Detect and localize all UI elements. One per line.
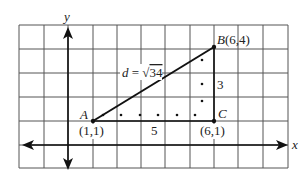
point-A-coords: (1,1)	[79, 123, 104, 138]
point-B	[212, 45, 216, 49]
hypotenuse-AB	[93, 47, 214, 121]
point-C-name: C	[218, 106, 227, 121]
coordinate-grid-figure: d = √34 B(6,4) A (1,1) C (6,1) 5 3 y x	[0, 0, 308, 178]
y-axis-label: y	[62, 9, 70, 24]
distance-label: d = √34	[122, 65, 163, 80]
point-B-name: B	[217, 32, 225, 47]
vertical-leg-length: 3	[217, 77, 224, 92]
x-axis-label: x	[291, 137, 298, 152]
horizontal-leg-length: 5	[151, 123, 158, 138]
distance-label-equals: =	[129, 65, 143, 80]
distance-label-radicand: 34	[149, 65, 163, 80]
point-A-name: A	[79, 107, 88, 122]
point-C-coords: (6,1)	[200, 123, 225, 138]
triangle	[93, 47, 214, 121]
point-B-coords: (6,4)	[225, 32, 250, 47]
point-B-label: B(6,4)	[217, 32, 250, 47]
axes	[22, 27, 288, 170]
